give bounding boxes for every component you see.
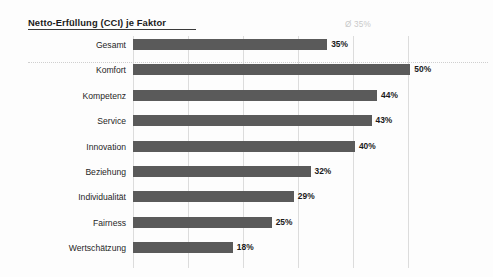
bar-category-label: Kompetenz (0, 91, 126, 101)
bar-category-label: Service (0, 116, 126, 126)
bar-value-label: 29% (298, 191, 315, 202)
average-annotation: Ø 35% (345, 20, 371, 29)
title-block: Netto-Erfüllung (CCI) je Faktor (28, 17, 288, 28)
bar (133, 191, 294, 202)
bar-value-label: 44% (381, 90, 398, 101)
bar-category-label: Fairness (0, 218, 126, 228)
title-underline (28, 29, 196, 30)
bar-value-label: 43% (376, 115, 393, 126)
bar-category-label: Individualität (0, 192, 126, 202)
bar-row: Fairness25% (0, 214, 493, 239)
bar-category-label: Innovation (0, 142, 126, 152)
bar (133, 166, 311, 177)
page-title: Netto-Erfüllung (CCI) je Faktor (28, 17, 288, 28)
bar (133, 90, 377, 101)
bar-row: Individualität29% (0, 188, 493, 213)
bar-row: Service43% (0, 112, 493, 137)
bar-value-label: 18% (237, 242, 254, 253)
bar-value-label: 35% (331, 39, 348, 50)
bar-row: Beziehung32% (0, 163, 493, 188)
bar (133, 217, 272, 228)
bar (133, 64, 410, 75)
bar (133, 242, 233, 253)
bar-row: Wertschätzung18% (0, 239, 493, 264)
bar-value-label: 25% (276, 217, 293, 228)
bar-row: Gesamt35% (0, 36, 493, 61)
bar-category-label: Komfort (0, 65, 126, 75)
bar-category-label: Beziehung (0, 167, 126, 177)
bar-category-label: Wertschätzung (0, 243, 126, 253)
bar-row: Innovation40% (0, 138, 493, 163)
bar (133, 115, 372, 126)
chart-figure: Netto-Erfüllung (CCI) je Faktor Ø 35% Ge… (0, 0, 493, 277)
bar-value-label: 40% (359, 141, 376, 152)
bar-value-label: 32% (315, 166, 332, 177)
bar-row: Kompetenz44% (0, 87, 493, 112)
bar (133, 141, 355, 152)
bar-value-label: 50% (414, 64, 431, 75)
bar (133, 39, 327, 50)
bar-category-label: Gesamt (0, 40, 126, 50)
bar-row: Komfort50% (0, 61, 493, 86)
